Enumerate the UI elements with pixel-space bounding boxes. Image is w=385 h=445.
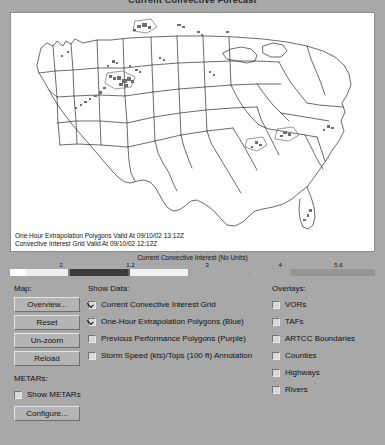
colorbar-segment: [130, 269, 188, 276]
show-data-label: Show Data:: [88, 284, 268, 294]
colorbar-tick-label: 3: [205, 262, 208, 269]
show-metars-label: Show METARs: [27, 390, 81, 399]
colorbar-tick-label: 2: [59, 262, 62, 269]
overlay-checkbox-0[interactable]: [272, 301, 280, 309]
overlay-checkbox-2[interactable]: [272, 335, 280, 343]
map-annotation-block: One Hour Extrapolation Polygons Valid At…: [15, 232, 184, 248]
colorbar-section: Current Convective Interest (No Units) 2…: [10, 254, 375, 280]
checkbox-row-overlay-1[interactable]: TAFs: [272, 314, 382, 329]
colorbar-tick-labels: 21.2345.6: [10, 262, 375, 269]
show-metars-checkbox[interactable]: [14, 391, 22, 399]
map-display-panel[interactable]: One Hour Extrapolation Polygons Valid At…: [10, 12, 375, 252]
show-data-label-2: Previous Performance Polygons (Purple): [101, 334, 246, 343]
colorbar-segment: [26, 269, 68, 276]
window-title-bar: Current Convective Forecast: [0, 0, 385, 10]
checkbox-row-overlay-0[interactable]: VORs: [272, 297, 382, 312]
overlay-checkbox-5[interactable]: [272, 386, 280, 394]
map-annotation-line-2: Convective Interest Grid Valid At 09/10/…: [15, 240, 184, 248]
checkbox-row-overlay-2[interactable]: ARTCC Boundaries: [272, 331, 382, 346]
colorbar-title: Current Convective Interest (No Units): [10, 254, 375, 262]
map-annotation-line-1: One Hour Extrapolation Polygons Valid At…: [15, 232, 184, 240]
overlay-label-0: VORs: [285, 300, 306, 309]
show-data-label-3: Storm Speed (kts)/Tops (100 ft) Annotati…: [101, 351, 252, 360]
checkbox-row-overlay-4[interactable]: Highways: [272, 365, 382, 380]
colorbar-tick-label: 5.6: [334, 262, 342, 269]
overlay-label-3: Counties: [285, 351, 317, 360]
colorbar-segment: [189, 269, 249, 276]
reset-button[interactable]: Reset: [14, 315, 80, 330]
map-controls-group: Map: Overview... Reset Un-zoom Reload: [14, 284, 84, 369]
overlay-label-1: TAFs: [285, 317, 304, 326]
us-conus-map[interactable]: [11, 13, 374, 251]
colorbar-segment: [250, 269, 290, 276]
colorbar-tick-label: 4: [278, 262, 281, 269]
checkbox-row-show-metars[interactable]: Show METARs: [14, 387, 134, 402]
overlay-label-2: ARTCC Boundaries: [285, 334, 355, 343]
show-data-checkbox-0[interactable]: [88, 301, 96, 309]
control-panel: Map: Overview... Reset Un-zoom Reload Sh…: [0, 282, 385, 445]
colorbar-gradient: [10, 269, 375, 276]
checkbox-row-show-data-2[interactable]: Previous Performance Polygons (Purple): [88, 331, 268, 346]
overlay-checkbox-3[interactable]: [272, 352, 280, 360]
metars-label: METARs:: [14, 374, 134, 384]
colorbar-tick-label: 1.2: [126, 262, 134, 269]
map-section-label: Map:: [14, 284, 84, 294]
reload-button[interactable]: Reload: [14, 351, 80, 366]
colorbar-segment: [10, 269, 26, 276]
un-zoom-button[interactable]: Un-zoom: [14, 333, 80, 348]
overlays-group: Overlays: VORsTAFsARTCC BoundariesCounti…: [272, 284, 382, 399]
show-data-checkbox-3[interactable]: [88, 352, 96, 360]
overlay-label-5: Rivers: [285, 385, 308, 394]
overlay-label-4: Highways: [285, 368, 320, 377]
colorbar-segment: [70, 269, 128, 276]
overlay-checkbox-1[interactable]: [272, 318, 280, 326]
checkbox-row-show-data-0[interactable]: Current Convective Interest Grid: [88, 297, 268, 312]
checkbox-row-overlay-3[interactable]: Counties: [272, 348, 382, 363]
overlays-label: Overlays:: [272, 284, 382, 294]
show-data-label-0: Current Convective Interest Grid: [101, 300, 216, 309]
checkbox-row-overlay-5[interactable]: Rivers: [272, 382, 382, 397]
metars-group: METARs: Show METARs Configure...: [14, 374, 134, 424]
overlay-checkbox-4[interactable]: [272, 369, 280, 377]
configure-button[interactable]: Configure...: [14, 406, 80, 421]
show-data-checkbox-2[interactable]: [88, 335, 96, 343]
show-data-checkbox-1[interactable]: [88, 318, 96, 326]
page-title: Current Convective Forecast: [128, 0, 256, 5]
checkbox-row-show-data-1[interactable]: One-Hour Extrapolation Polygons (Blue): [88, 314, 268, 329]
application-window: Current Convective Forecast: [0, 0, 385, 445]
show-data-group: Show Data: Current Convective Interest G…: [88, 284, 268, 365]
show-data-label-1: One-Hour Extrapolation Polygons (Blue): [101, 317, 244, 326]
checkbox-row-show-data-3[interactable]: Storm Speed (kts)/Tops (100 ft) Annotati…: [88, 348, 268, 363]
overview-button[interactable]: Overview...: [14, 297, 80, 312]
